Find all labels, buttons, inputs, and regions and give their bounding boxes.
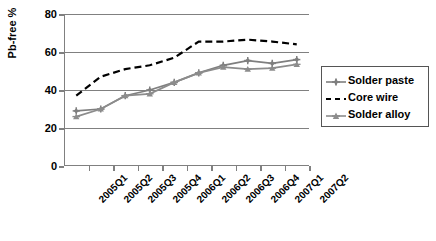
legend-swatch-solder-alloy bbox=[325, 108, 347, 120]
x-axis-tick-mark bbox=[285, 166, 287, 171]
data-point-marker bbox=[72, 114, 80, 120]
y-axis-tick-label: 20 bbox=[31, 122, 57, 134]
x-axis-tick-mark bbox=[138, 166, 140, 171]
y-axis-tick-mark bbox=[59, 90, 64, 92]
x-axis-tick-mark bbox=[113, 166, 115, 171]
legend-item-core-wire[interactable]: Core wire bbox=[325, 88, 424, 105]
series-line bbox=[76, 64, 297, 116]
x-axis-tick-mark bbox=[260, 166, 262, 171]
legend-swatch-solder-paste bbox=[325, 74, 347, 86]
data-point-marker bbox=[268, 65, 276, 71]
x-axis-tick-mark bbox=[236, 166, 238, 171]
chart-legend: Solder paste Core wire Solder alloy bbox=[321, 66, 429, 127]
data-point-marker bbox=[170, 79, 178, 85]
y-axis-tick-label: 0 bbox=[31, 160, 57, 172]
y-axis-tick-mark bbox=[59, 14, 64, 16]
y-axis-tick-mark bbox=[59, 128, 64, 130]
x-axis-tick-mark bbox=[162, 166, 164, 171]
data-point-marker bbox=[121, 93, 129, 99]
legend-swatch-core-wire bbox=[325, 91, 347, 103]
chart-container: Pb-free % 2005Q12005Q22005Q32005Q42006Q1… bbox=[0, 0, 436, 241]
x-axis-tick-mark bbox=[89, 166, 91, 171]
legend-label-solder-paste: Solder paste bbox=[347, 74, 414, 86]
legend-item-solder-paste[interactable]: Solder paste bbox=[325, 71, 424, 88]
legend-label-core-wire: Core wire bbox=[347, 91, 398, 103]
y-axis-tick-label: 40 bbox=[31, 84, 57, 96]
data-point-marker bbox=[244, 66, 252, 72]
data-point-marker bbox=[293, 61, 301, 67]
data-point-marker bbox=[73, 107, 80, 114]
legend-label-solder-alloy: Solder alloy bbox=[347, 108, 410, 120]
x-axis-tick-mark bbox=[211, 166, 213, 171]
series-line bbox=[76, 60, 297, 111]
y-axis-tick-label: 60 bbox=[31, 46, 57, 58]
y-axis-tick-mark bbox=[59, 166, 64, 168]
x-axis-tick-mark bbox=[187, 166, 189, 171]
y-axis-tick-mark bbox=[59, 52, 64, 54]
y-axis-tick-label: 80 bbox=[31, 8, 57, 20]
x-axis-tick-mark bbox=[309, 166, 311, 171]
legend-item-solder-alloy[interactable]: Solder alloy bbox=[325, 105, 424, 122]
data-point-marker bbox=[244, 57, 251, 64]
data-point-marker bbox=[195, 70, 203, 76]
